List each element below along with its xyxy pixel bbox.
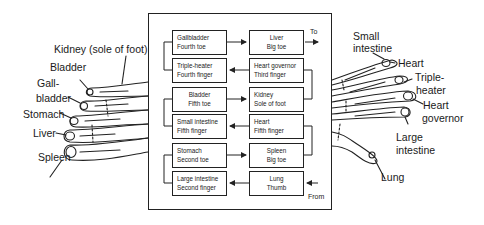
label-small-intestine-2: intestine xyxy=(353,42,392,54)
site-label: Fourth finger xyxy=(177,70,226,79)
meridian-box-heart: Heart Fifth finger xyxy=(249,114,304,139)
meridian-box-small-intestine: Small intestine Fifth finger xyxy=(172,114,227,139)
organ-label: Small intestine xyxy=(177,117,226,126)
meridian-box-heart-governor: Heart governor Third finger xyxy=(249,58,304,83)
to-label: To xyxy=(310,26,317,38)
organ-label: Liver xyxy=(250,33,303,42)
meridian-diagram: Gallbladder Fourth toe Liver Big toe Tri… xyxy=(0,0,484,225)
label-gallbladder-2: bladder xyxy=(36,92,71,104)
organ-label: Triple-heater xyxy=(177,61,226,70)
meridian-box-triple-heater: Triple-heater Fourth finger xyxy=(172,58,227,83)
organ-label: Bladder xyxy=(173,90,226,99)
meridian-box-gallbladder: Gallbladder Fourth toe xyxy=(172,30,227,55)
site-label: Fifth toe xyxy=(173,99,226,108)
label-liver: Liver xyxy=(33,127,56,139)
site-label: Thumb xyxy=(250,183,303,192)
label-lung: Lung xyxy=(381,171,404,183)
label-heart-governor-1: Heart xyxy=(423,99,449,111)
label-kidney: Kidney (sole of foot) xyxy=(54,43,147,55)
meridian-box-lung: Lung Thumb xyxy=(249,171,304,196)
meridian-box-kidney: Kidney Sole of foot xyxy=(249,87,304,112)
site-label: Second finger xyxy=(177,183,226,192)
meridian-box-bladder: Bladder Fifth toe xyxy=(172,87,227,112)
label-triple-heater-1: Triple- xyxy=(415,71,444,83)
organ-label: Kidney xyxy=(254,90,303,99)
meridian-box-large-intestine: Large intestine Second finger xyxy=(172,171,227,196)
organ-label: Lung xyxy=(250,174,303,183)
label-spleen: Spleen xyxy=(38,151,71,163)
site-label: Fourth toe xyxy=(177,42,226,51)
meridian-box-spleen: Spleen Big toe xyxy=(249,143,304,168)
meridian-box-stomach: Stomach Second toe xyxy=(172,143,227,168)
site-label: Fifth finger xyxy=(177,126,226,135)
label-gallbladder-1: Gall- xyxy=(37,77,59,89)
label-stomach: Stomach xyxy=(23,108,64,120)
meridian-box-liver: Liver Big toe xyxy=(249,30,304,55)
organ-label: Large intestine xyxy=(177,174,226,183)
label-small-intestine-1: Small xyxy=(353,30,379,42)
label-heart-governor-2: governor xyxy=(422,112,463,124)
site-label: Big toe xyxy=(250,42,303,51)
label-bladder: Bladder xyxy=(50,61,86,73)
from-label: From xyxy=(308,191,324,203)
label-large-intestine-2: intestine xyxy=(396,144,435,156)
site-label: Sole of foot xyxy=(254,99,303,108)
label-heart: Heart xyxy=(398,57,424,69)
organ-label: Heart xyxy=(254,117,303,126)
site-label: Second toe xyxy=(177,155,226,164)
organ-label: Stomach xyxy=(177,146,226,155)
label-large-intestine-1: Large xyxy=(396,131,423,143)
site-label: Fifth finger xyxy=(254,126,303,135)
label-triple-heater-2: heater xyxy=(416,84,446,96)
organ-label: Gallbladder xyxy=(177,33,226,42)
flow-connectors xyxy=(0,0,484,225)
site-label: Big toe xyxy=(250,155,303,164)
organ-label: Spleen xyxy=(250,146,303,155)
site-label: Third finger xyxy=(254,70,303,79)
organ-label: Heart governor xyxy=(254,61,303,70)
